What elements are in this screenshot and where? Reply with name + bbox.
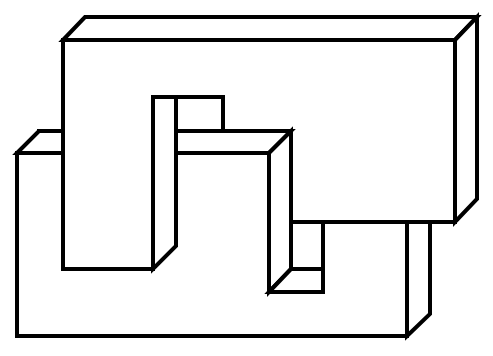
hook-inner bbox=[291, 222, 323, 269]
impossible-figure: Impossible figure: two interlocking 3D r… bbox=[0, 0, 493, 356]
pillar-right bbox=[153, 97, 176, 269]
back-slab-right bbox=[407, 222, 430, 336]
pillar-top-box bbox=[176, 97, 223, 131]
top-slab-right bbox=[455, 17, 477, 222]
hook-right bbox=[269, 131, 291, 292]
back-slab-top-left bbox=[17, 131, 63, 153]
top-slab-top bbox=[63, 17, 477, 40]
figure-canvas bbox=[0, 0, 493, 356]
